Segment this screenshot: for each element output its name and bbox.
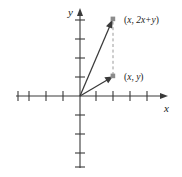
image-point-marker bbox=[111, 17, 116, 22]
y-axis-arrowhead bbox=[77, 8, 83, 16]
x-axis-arrowhead bbox=[160, 93, 168, 99]
axes-group bbox=[16, 8, 168, 168]
image-point-label-close: ) bbox=[156, 15, 159, 26]
image-point-label-second: 2x+y bbox=[136, 15, 156, 25]
coordinate-plane-figure: y x (x, 2x+y) (x, y) bbox=[0, 0, 182, 177]
figure-container: y x (x, 2x+y) (x, y) bbox=[0, 0, 182, 177]
source-point-marker bbox=[111, 74, 116, 79]
source-point-label: (x, y) bbox=[124, 72, 144, 83]
image-point-label: (x, 2x+y) bbox=[124, 15, 159, 26]
source-point-label-close: ) bbox=[140, 72, 143, 83]
y-axis-label: y bbox=[67, 6, 73, 18]
x-axis-label: x bbox=[163, 102, 169, 114]
